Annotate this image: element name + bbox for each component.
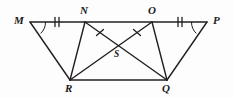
vertex-label-N: N [80,5,88,16]
vertex-label-R: R [65,83,72,94]
arc-m-icon [41,22,46,33]
angle-arcs-group [41,22,197,33]
segment-MR [30,22,70,80]
vertex-label-Q: Q [162,83,170,94]
arc-p-icon [191,22,196,33]
vertex-label-O: O [148,5,156,16]
geometry-figure: M N O P R Q S [0,0,234,98]
tick-marks-group [55,18,182,36]
segment-PQ [167,22,207,80]
vertex-label-P: P [213,15,220,26]
vertex-label-S: S [114,50,119,60]
vertex-label-M: M [14,15,24,26]
